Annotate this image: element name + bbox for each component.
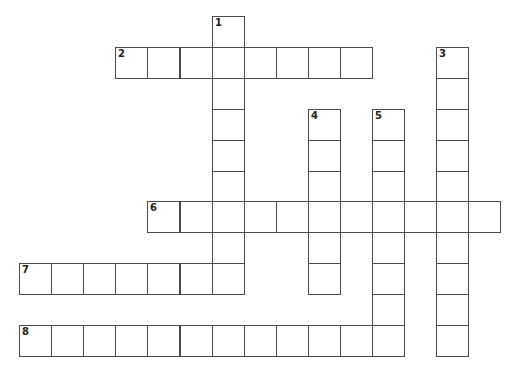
crossword-cell[interactable]: 4 [308,109,341,141]
crossword-cell[interactable] [212,201,245,233]
crossword-cell[interactable] [212,325,245,357]
crossword-cell[interactable] [308,232,341,264]
crossword-cell[interactable] [180,47,213,79]
crossword-cell[interactable] [436,171,469,203]
crossword-cell[interactable] [372,232,405,264]
crossword-cell[interactable] [212,140,245,172]
crossword-cell[interactable] [212,232,245,264]
crossword-cell[interactable] [372,263,405,295]
crossword-cell[interactable] [51,325,84,357]
crossword-cell[interactable] [244,325,277,357]
crossword-cell[interactable] [147,325,180,357]
crossword-cell[interactable]: 1 [212,16,245,48]
crossword-cell[interactable]: 5 [372,109,405,141]
crossword-cell[interactable] [308,325,341,357]
crossword-cell[interactable] [212,263,245,295]
crossword-cell[interactable]: 3 [436,47,469,79]
crossword-cell[interactable] [308,140,341,172]
crossword-cell[interactable] [372,140,405,172]
crossword-cell[interactable] [308,263,341,295]
crossword-cell[interactable]: 2 [115,47,148,79]
crossword-cell[interactable] [340,201,373,233]
crossword-cell[interactable] [372,325,405,357]
crossword-cell[interactable] [180,325,213,357]
clue-number: 7 [22,264,29,276]
crossword-cell[interactable] [436,294,469,326]
clue-number: 3 [439,48,446,60]
crossword-cell[interactable] [180,263,213,295]
clue-number: 5 [375,110,382,122]
crossword-cell[interactable] [276,325,309,357]
crossword-cell[interactable] [308,201,341,233]
crossword-cell[interactable] [372,201,405,233]
crossword-grid: 12345678 [0,0,516,374]
crossword-cell[interactable] [404,201,437,233]
crossword-cell[interactable]: 6 [147,201,180,233]
crossword-cell[interactable] [244,201,277,233]
crossword-cell[interactable] [115,263,148,295]
crossword-cell[interactable] [436,263,469,295]
crossword-cell[interactable] [436,78,469,110]
crossword-cell[interactable] [276,201,309,233]
crossword-cell[interactable] [308,171,341,203]
clue-number: 1 [215,17,222,29]
clue-number: 6 [150,202,157,214]
crossword-cell[interactable]: 7 [19,263,52,295]
crossword-cell[interactable] [212,171,245,203]
crossword-cell[interactable] [436,140,469,172]
crossword-cell[interactable] [115,325,148,357]
clue-number: 8 [22,326,29,338]
crossword-cell[interactable] [212,47,245,79]
crossword-cell[interactable] [436,109,469,141]
crossword-cell[interactable] [212,109,245,141]
crossword-cell[interactable] [308,47,341,79]
crossword-cell[interactable] [83,263,116,295]
clue-number: 2 [118,48,125,60]
crossword-cell[interactable] [244,47,277,79]
crossword-cell[interactable] [372,294,405,326]
crossword-cell[interactable] [147,47,180,79]
crossword-cell[interactable] [436,201,469,233]
crossword-cell[interactable] [51,263,84,295]
crossword-cell[interactable]: 8 [19,325,52,357]
crossword-cell[interactable] [83,325,116,357]
crossword-cell[interactable] [436,325,469,357]
crossword-cell[interactable] [180,201,213,233]
crossword-cell[interactable] [468,201,501,233]
crossword-cell[interactable] [276,47,309,79]
crossword-cell[interactable] [436,232,469,264]
crossword-cell[interactable] [147,263,180,295]
crossword-cell[interactable] [212,78,245,110]
clue-number: 4 [311,110,318,122]
crossword-cell[interactable] [372,171,405,203]
crossword-cell[interactable] [340,325,373,357]
crossword-cell[interactable] [340,47,373,79]
